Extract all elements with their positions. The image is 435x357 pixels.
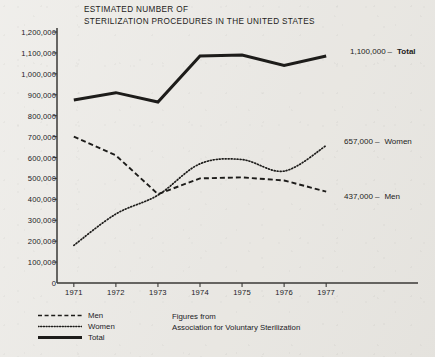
chart-axis-ticks — [53, 32, 326, 287]
end-label-women-value: 657,000 — [344, 137, 373, 146]
end-label-total: 1,100,000–Total — [350, 47, 416, 56]
legend-swatch-dashed — [38, 311, 82, 320]
source-note: Figures from Association for Voluntary S… — [172, 311, 300, 333]
legend-label-women: Women — [88, 322, 115, 331]
chart-axes — [57, 28, 418, 283]
legend-item-total[interactable]: Total — [38, 332, 115, 343]
legend-item-women[interactable]: Women — [38, 321, 115, 332]
legend-label-total: Total — [88, 333, 104, 342]
x-tick-label-1976: 1976 — [275, 288, 293, 297]
series-line-total — [74, 55, 326, 102]
end-label-total-value: 1,100,000 — [350, 47, 386, 56]
chart-legend: Men Women Total — [38, 310, 115, 343]
x-tick-label-1975: 1975 — [233, 288, 251, 297]
x-tick-label-1971: 1971 — [65, 288, 83, 297]
end-label-men-value: 437,000 — [344, 192, 373, 201]
series-line-women — [74, 146, 326, 246]
end-label-men: 437,000–Men — [344, 192, 400, 201]
legend-label-men: Men — [88, 311, 103, 320]
chart-series-lines — [74, 55, 326, 245]
legend-swatch-solid — [38, 333, 82, 342]
legend-swatch-dotted — [38, 322, 82, 331]
x-tick-label-1977: 1977 — [317, 288, 335, 297]
x-tick-label-1973: 1973 — [149, 288, 167, 297]
end-label-men-name: Men — [381, 192, 400, 201]
x-tick-label-1974: 1974 — [191, 288, 209, 297]
end-label-women-name: Women — [381, 137, 411, 146]
end-label-total-dash: – — [386, 47, 394, 56]
x-tick-label-1972: 1972 — [107, 288, 125, 297]
chart-page: ESTIMATED NUMBER OF STERILIZATION PROCED… — [0, 0, 435, 357]
series-line-men — [74, 137, 326, 195]
end-label-women: 657,000–Women — [344, 137, 412, 146]
legend-item-men[interactable]: Men — [38, 310, 115, 321]
end-label-total-name: Total — [394, 47, 416, 56]
